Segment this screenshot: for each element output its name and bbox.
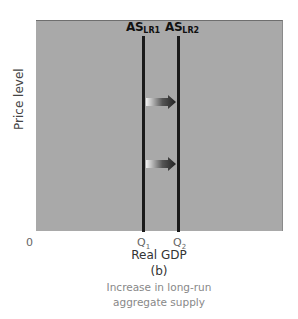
aslr1-line xyxy=(142,36,145,232)
aslr2-label: ASLR2 xyxy=(165,20,199,35)
chart-caption: Increase in long-run aggregate supply xyxy=(0,280,298,310)
caption-line-2: aggregate supply xyxy=(0,295,298,310)
y-axis-label: Price level xyxy=(12,68,26,130)
aslr2-label-sub: LR2 xyxy=(182,26,199,35)
panel-label: (b) xyxy=(0,264,298,278)
aslr2-label-main: AS xyxy=(165,20,182,34)
caption-line-1: Increase in long-run xyxy=(0,280,298,295)
aslr1-label-sub: LR1 xyxy=(143,26,160,35)
aslr1-label-main: AS xyxy=(126,20,143,34)
aslr1-label: ASLR1 xyxy=(126,20,160,35)
plot-area xyxy=(36,20,283,231)
shift-arrow-lower-icon xyxy=(146,157,177,171)
shift-arrow-upper-icon xyxy=(146,95,177,109)
aslr2-line xyxy=(177,36,180,232)
x-axis-label: Real GDP xyxy=(10,248,298,262)
